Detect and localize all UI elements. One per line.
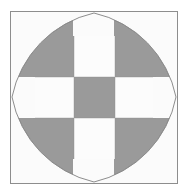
white-arm-overhang-top — [73, 12, 114, 36]
outer-border — [10, 11, 178, 184]
white-arm-overhang-left — [11, 77, 35, 118]
white-arm-overhang-right — [153, 77, 177, 118]
checker-cell-r1c2 — [115, 77, 156, 118]
astroid-checkerboard-svg — [11, 12, 177, 183]
checker-cell-r1c0 — [33, 77, 74, 118]
center-checkerboard — [33, 36, 156, 159]
checker-cell-r0c1 — [74, 36, 115, 77]
checker-cell-r2c1 — [74, 118, 115, 159]
figure-root — [0, 0, 190, 196]
white-arm-overhang-bottom — [73, 159, 114, 183]
checker-cell-r1c1 — [74, 77, 115, 118]
